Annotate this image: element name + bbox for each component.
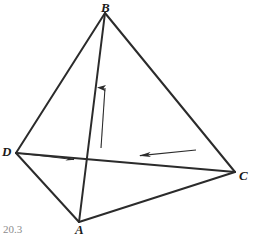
- edge-B-D: [16, 13, 105, 153]
- edge-D-C: [16, 153, 235, 172]
- vertex-label-B: B: [101, 1, 110, 14]
- edge-B-A: [79, 13, 105, 222]
- arrow-group: [18, 88, 196, 160]
- vertical-up-arrow: [101, 88, 105, 148]
- edge-D-A: [16, 153, 79, 222]
- figure-canvas: B D C A 20.3: [0, 0, 253, 234]
- vertex-label-C: C: [239, 169, 248, 182]
- figure-caption: 20.3: [3, 224, 22, 234]
- vertex-label-D: D: [2, 145, 11, 158]
- edge-A-C: [79, 172, 235, 222]
- horizontal-left-arrow: [140, 150, 196, 156]
- edge-B-C: [105, 13, 235, 172]
- vertex-label-A: A: [75, 223, 84, 234]
- edge-group: [16, 13, 235, 222]
- tetrahedron-drawing: [0, 0, 253, 234]
